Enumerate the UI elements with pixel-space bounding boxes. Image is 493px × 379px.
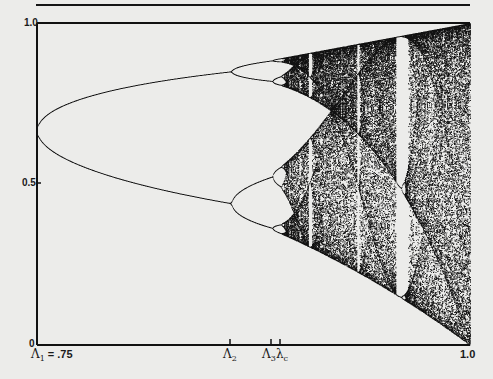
x-label-lambda3: Λ3 xyxy=(262,347,276,363)
x-label-lambda1: Λ1 = .75 xyxy=(31,347,73,363)
lambda-symbol: Λ xyxy=(262,347,271,361)
bifurcation-figure: 1.0 0.5 0 Λ1 = .75 Λ2 Λ3 λc 1.0 xyxy=(0,0,493,379)
x-label-lambdac: λc xyxy=(276,347,288,363)
lambda1-value: = .75 xyxy=(45,348,73,360)
x-label-lambda2: Λ2 xyxy=(223,347,237,363)
lambda-symbol: Λ xyxy=(31,347,40,361)
lambda-symbol: Λ xyxy=(223,347,232,361)
x-tick-label-1: 1.0 xyxy=(460,348,475,360)
lambda3-subscript: 3 xyxy=(271,354,276,363)
bifurcation-plot xyxy=(0,0,493,379)
y-tick-label-0.5: 0.5 xyxy=(22,177,36,188)
lambda2-subscript: 2 xyxy=(232,354,237,363)
y-tick-label-1: 1.0 xyxy=(24,17,38,28)
lambdac-subscript: c xyxy=(284,354,288,363)
chaotic-region xyxy=(37,23,471,345)
orbit-points xyxy=(37,23,471,345)
lambda-c-symbol: λ xyxy=(276,347,284,361)
